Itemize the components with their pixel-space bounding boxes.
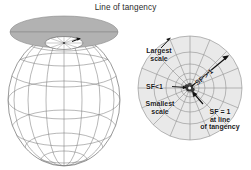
- tangent-plane-back: [10, 16, 118, 32]
- sphere: [8, 29, 120, 169]
- label-smallest-scale: Smallest scale: [138, 100, 182, 115]
- polar-tangency-cap: [45, 37, 83, 50]
- label-sf-equal-one-line2: at line: [210, 116, 230, 123]
- label-sf-equal-one: SF = 1 at line of tangency: [193, 108, 247, 131]
- pole-marker: [63, 42, 65, 44]
- diagram-svg: [0, 0, 251, 170]
- figure-canvas: Line of tangency: [0, 0, 251, 170]
- label-smallest-scale-line2: scale: [151, 108, 169, 115]
- label-sf-equal-one-line3: of tangency: [200, 123, 239, 130]
- label-largest-scale-line1: Largest: [146, 47, 171, 54]
- tangent-plane-back-half: [10, 16, 118, 32]
- label-smallest-scale-line1: Smallest: [146, 100, 175, 107]
- label-sf-equal-one-line1: SF = 1: [210, 108, 231, 115]
- label-largest-scale-line2: scale: [150, 55, 168, 62]
- label-largest-scale: Largest scale: [139, 47, 179, 62]
- globe-group: [8, 16, 120, 169]
- label-sf-less-than-one: SF<1: [146, 83, 163, 91]
